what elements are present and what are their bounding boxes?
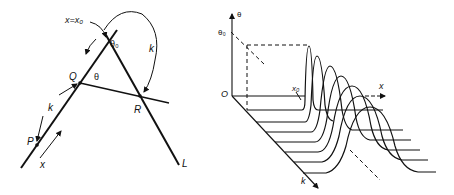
line-left-leg (21, 30, 117, 168)
figure: x=x₀ θ₀ k Q θ R k P x L (0, 0, 454, 195)
label-theta0: θ₀ (110, 39, 119, 49)
label-P: P (27, 136, 34, 147)
left-diagram: x=x₀ θ₀ k Q θ R k P x L (21, 12, 188, 170)
label-theta: θ (94, 72, 99, 82)
label-x: x (39, 159, 46, 170)
line-QR (80, 83, 169, 103)
label-R: R (134, 104, 141, 115)
label-Q: Q (69, 71, 77, 82)
dashed-theta0-diag (231, 32, 265, 65)
point-Q (78, 81, 82, 85)
label-k-upper: k (149, 43, 155, 54)
label-theta0-axis: θ₀ (218, 28, 226, 37)
label-origin: O (221, 89, 228, 99)
label-k-lower: k (48, 102, 54, 113)
profile-curves (247, 46, 436, 173)
arrow-x0-to-apex (90, 22, 106, 37)
label-L: L (182, 158, 188, 169)
arrow-into-Q (59, 84, 77, 95)
line-L (106, 35, 179, 165)
arrow-apex-down (86, 39, 96, 54)
point-P (35, 143, 39, 147)
label-theta-axis: θ (237, 10, 242, 19)
label-x-axis: x (378, 81, 384, 91)
dashed-peak-trace (350, 150, 380, 180)
profile-curve-1 (247, 46, 383, 110)
point-R (138, 94, 142, 98)
right-diagram: θ θ₀ O x₀ x k (218, 10, 436, 188)
label-x0: x₀ (291, 84, 300, 93)
label-x-eq-x0: x=x₀ (64, 15, 83, 25)
label-k-axis: k (301, 176, 306, 186)
